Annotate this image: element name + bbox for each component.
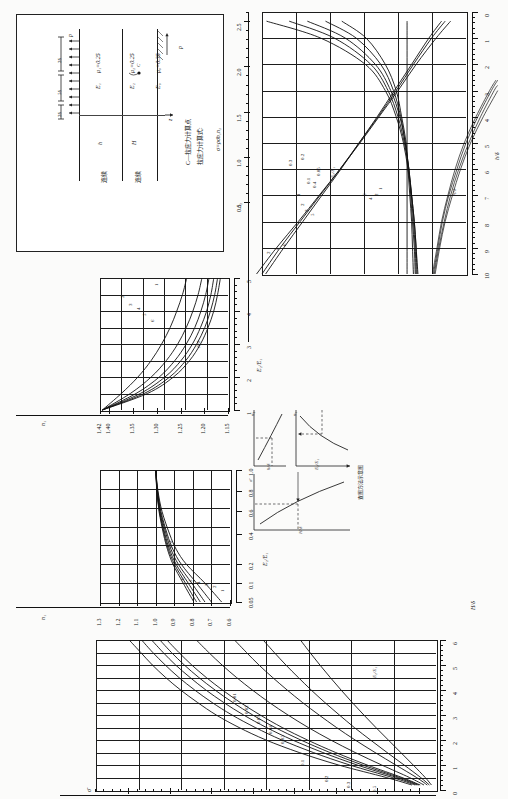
axis-minor-tick — [472, 112, 475, 113]
tick-label: 0.04 — [268, 725, 273, 734]
curve — [196, 640, 424, 785]
curve — [102, 278, 202, 410]
axis-minor-tick — [440, 725, 443, 726]
axis-tick — [419, 788, 420, 794]
schematic-note-line-2: 拉应力计算式: — [195, 127, 204, 165]
axis-tick — [234, 278, 240, 279]
method-Hdelta-label: H/δ — [298, 527, 303, 534]
axis-tick — [236, 534, 242, 535]
axis-minor-tick — [440, 745, 443, 746]
tick-label: 0.6 — [226, 619, 232, 627]
axis-minor-tick — [246, 121, 249, 122]
chart-sigma-xticks — [440, 640, 450, 790]
axis-minor-tick — [472, 106, 475, 107]
axis-minor-tick — [472, 22, 475, 23]
axis-minor-tick — [269, 789, 270, 792]
tick-label: 1.15 — [224, 424, 230, 435]
axis-minor-tick — [410, 789, 411, 792]
tick-label: 1.20 — [200, 424, 206, 435]
curve — [156, 470, 197, 602]
axis-tick — [170, 788, 171, 794]
axis-minor-tick — [472, 269, 475, 270]
tick-label: 1.3 — [96, 619, 102, 627]
axis-minor-tick — [402, 789, 403, 792]
tick-label: 6 — [150, 320, 155, 323]
tick-label: 3 — [204, 584, 209, 587]
axis-minor-tick — [246, 175, 249, 176]
chart-sigma-xlabel: H/δ — [470, 601, 476, 610]
tick-label: 1.0 — [236, 160, 242, 168]
schematic-mu2: μ₂=0.25 — [129, 53, 135, 73]
axis-minor-tick — [186, 789, 187, 792]
chart-n2-xlabel: h/δ — [494, 153, 500, 160]
tick-label: 1.40 — [105, 424, 111, 435]
axis-tick — [472, 195, 478, 196]
chart-n2-ylabel: n₂ — [236, 203, 242, 208]
axis-minor-tick — [440, 670, 443, 671]
tick-label: 1 — [484, 40, 490, 43]
axis-tick — [377, 788, 378, 794]
chart-n1u-yticks — [16, 406, 228, 418]
axis-minor-tick — [440, 700, 443, 701]
curve — [432, 80, 495, 274]
axis-minor-tick — [234, 390, 237, 391]
schematic-edge-2: 连续 — [133, 171, 142, 183]
chart-n2-xticks — [472, 12, 486, 274]
tick-label: 2 — [120, 296, 125, 299]
tick-label: 4 — [274, 248, 279, 251]
axis-minor-tick — [234, 337, 237, 338]
axis-minor-tick — [472, 190, 475, 191]
axis-minor-tick — [246, 130, 249, 131]
tick-label: 3 — [128, 304, 133, 307]
curve — [342, 21, 414, 274]
curve — [289, 21, 417, 274]
tick-label: 1 — [296, 194, 301, 197]
tick-label: 3 — [484, 93, 490, 96]
axis-minor-tick — [246, 193, 249, 194]
tick-label: 0.1 — [300, 760, 305, 766]
axis-minor-tick — [472, 33, 475, 34]
axis-tick — [440, 715, 446, 716]
axis-minor-tick — [472, 59, 475, 60]
tick-label: 0.02 — [244, 705, 249, 714]
tick-label: 1.1 — [133, 619, 139, 627]
chart-n1l-legend: H/δ — [168, 541, 173, 548]
tick-label: 4 — [136, 308, 141, 311]
tick-label: 6 — [484, 171, 490, 174]
axis-minor-tick — [472, 159, 475, 160]
axis-minor-tick — [440, 645, 443, 646]
tick-label: 4 — [196, 582, 201, 585]
axis-tick — [440, 740, 446, 741]
axis-tick — [440, 690, 446, 691]
axis-minor-tick — [145, 789, 146, 792]
tick-label: 0.7 — [207, 619, 213, 627]
tick-label: 1.25 — [177, 424, 183, 435]
tick-label: 0.2 — [248, 563, 254, 571]
schematic-dim-2delta-a: 2δ — [57, 58, 62, 63]
axis-minor-tick — [278, 789, 279, 792]
curve — [307, 21, 416, 274]
axis-minor-tick — [472, 206, 475, 207]
axis-minor-tick — [440, 685, 443, 686]
axis-tick — [137, 600, 138, 606]
curve — [129, 640, 412, 785]
method-n2-label: n₂ — [250, 412, 255, 416]
axis-minor-tick — [472, 211, 475, 212]
axis-minor-tick — [137, 789, 138, 792]
axis-tick — [133, 408, 134, 414]
axis-tick — [472, 38, 478, 39]
axis-minor-tick — [103, 789, 104, 792]
axis-minor-tick — [472, 43, 475, 44]
axis-minor-tick — [440, 755, 443, 756]
axis-tick — [181, 408, 182, 414]
axis-minor-tick — [234, 324, 237, 325]
axis-minor-tick — [246, 30, 249, 31]
chart-sigma-legend: E₂/E₁ — [372, 667, 377, 678]
chart-n1u-ylabel: n₁ — [40, 421, 46, 426]
tick-label: 1 — [378, 188, 383, 191]
axis-minor-tick — [352, 789, 353, 792]
axis-tick — [211, 600, 212, 606]
axis-minor-tick — [220, 789, 221, 792]
axis-minor-tick — [161, 789, 162, 792]
axis-tick — [234, 311, 240, 312]
